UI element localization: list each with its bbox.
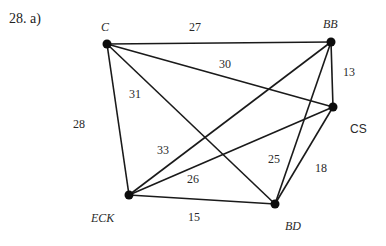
node-c (103, 40, 112, 49)
node-bd (271, 200, 280, 209)
edge-weight-c-eck: 28 (73, 117, 85, 131)
node-bb (327, 38, 336, 47)
edge-bb-cs (331, 42, 333, 107)
edge-weight-c-cs: 30 (219, 57, 231, 71)
node-label-eck: ECK (90, 211, 115, 225)
edge-weight-c-bd: 31 (129, 87, 141, 101)
edge-weight-bb-cs: 13 (343, 65, 355, 79)
node-label-bd: BD (285, 219, 301, 233)
edge-weight-bb-bd: 25 (268, 152, 280, 166)
edge-eck-bd (129, 195, 275, 204)
edge-weight-eck-bd: 15 (188, 210, 200, 224)
edge-weight-c-bb: 27 (189, 20, 201, 34)
node-eck (125, 191, 134, 200)
node-cs (329, 103, 338, 112)
node-label-c: C (101, 20, 110, 34)
weighted-graph: 27303128332615132518 CBBCSECKBD (0, 0, 386, 246)
node-label-cs: CS (350, 122, 367, 136)
edge-weights: 27303128332615132518 (73, 20, 355, 224)
edge-c-eck (107, 44, 129, 195)
edge-weight-eck-cs: 26 (187, 172, 199, 186)
node-label-bb: BB (323, 17, 338, 31)
edge-weight-cs-bd: 18 (315, 161, 327, 175)
edge-c-bb (107, 42, 331, 44)
edge-weight-eck-bb: 33 (157, 143, 169, 157)
